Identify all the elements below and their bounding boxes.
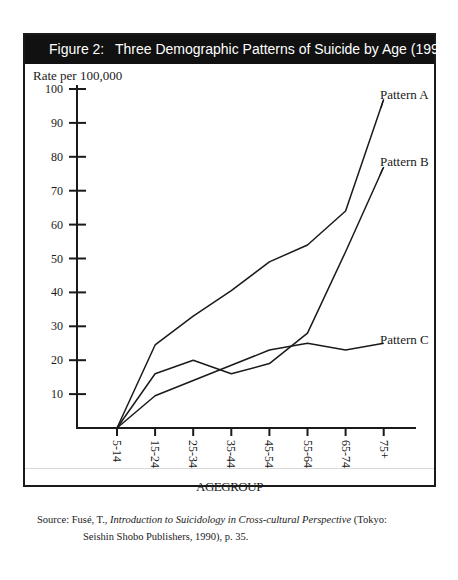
x-tick-label: 65-74 <box>339 440 353 468</box>
x-tick-label: 25-34 <box>186 440 200 468</box>
pattern-c-line <box>117 343 384 428</box>
pattern-b-leader <box>380 168 383 175</box>
x-tick-label: 15-24 <box>148 440 162 468</box>
series-lines <box>117 99 384 428</box>
source-prefix: Source: <box>37 514 69 525</box>
y-tick-label: 50 <box>51 252 63 266</box>
pattern-b-label: Pattern B <box>380 154 429 169</box>
y-tick-label: 30 <box>51 319 63 333</box>
source-book-title: Introduction to Suicidology in Cross-cul… <box>110 514 351 525</box>
source-author: Fusé, T., <box>72 514 108 525</box>
pattern-a-label: Pattern A <box>380 87 429 102</box>
source-citation: Source: Fusé, T., Introduction to Suicid… <box>37 511 427 545</box>
pattern-a-line <box>117 99 384 428</box>
divider <box>25 468 434 469</box>
y-tick-label: 80 <box>51 150 63 164</box>
x-tick-label: 35-44 <box>224 440 238 468</box>
pattern-b-line <box>117 167 384 428</box>
x-tick-label: 5-14 <box>110 440 124 462</box>
y-axis-ticks: 102030405060708090100 <box>45 82 86 401</box>
y-tick-label: 20 <box>51 353 63 367</box>
x-axis-label: AGEGROUP <box>25 479 434 495</box>
pattern-c-label: Pattern C <box>380 332 429 347</box>
source-publisher-2: Seishin Shobo Publishers, 1990), p. 35. <box>37 528 427 545</box>
source-publisher-1: (Tokyo: <box>354 514 387 525</box>
x-tick-label: 75+ <box>377 440 391 459</box>
y-tick-label: 60 <box>51 218 63 232</box>
x-tick-label: 45-54 <box>262 440 276 468</box>
y-tick-label: 100 <box>45 82 63 96</box>
line-chart: Rate per 100,000 102030405060708090100 5… <box>25 35 438 489</box>
x-axis-ticks: 5-1415-2425-3435-4445-5455-6465-7475+ <box>110 428 391 468</box>
x-tick-label: 55-64 <box>301 440 315 468</box>
y-tick-label: 70 <box>51 184 63 198</box>
y-tick-label: 10 <box>51 387 63 401</box>
y-tick-label: 90 <box>51 116 63 130</box>
y-tick-label: 40 <box>51 285 63 299</box>
y-axis-label: Rate per 100,000 <box>33 68 122 83</box>
figure-frame: Figure 2: Three Demographic Patterns of … <box>23 33 436 487</box>
